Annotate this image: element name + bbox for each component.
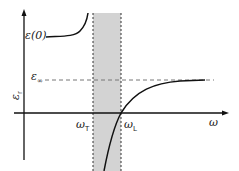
dielectric-function-diagram: ε(0) ε∞ εr ωT ωL ω: [0, 0, 239, 171]
omega-t-label: ωT: [76, 118, 90, 133]
omega-l-label: ωL: [124, 118, 137, 133]
reststrahlen-band: [93, 13, 121, 171]
x-axis-arrow-icon: [222, 111, 229, 116]
eps0-label: ε(0): [25, 29, 46, 42]
y-axis-arrow-icon: [22, 9, 27, 16]
low-frequency-branch: [46, 13, 88, 37]
eps-inf-label: ε∞: [31, 70, 43, 85]
y-axis-label: εr: [9, 91, 24, 100]
x-axis-label: ω: [209, 116, 218, 129]
